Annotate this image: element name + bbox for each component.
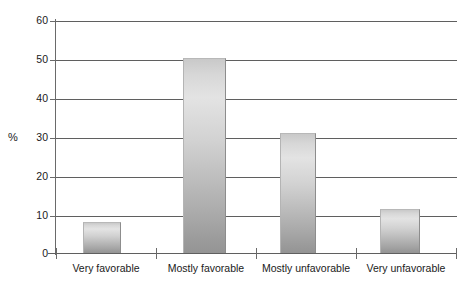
bar-mostly-favorable	[183, 58, 226, 253]
category-tick-1	[156, 248, 157, 259]
category-label-very-favorable: Very favorable	[56, 262, 156, 274]
category-label-mostly-unfavorable: Mostly unfavorable	[254, 262, 358, 274]
y-tick-label-0: 0	[22, 248, 48, 259]
category-label-mostly-favorable: Mostly favorable	[156, 262, 256, 274]
bar-chart: % 60 50 40 30 20 10 0 Very favorable Mos…	[0, 0, 465, 289]
gridline-40	[56, 99, 457, 100]
gridline-50	[56, 60, 457, 61]
plot-area	[56, 21, 457, 253]
category-tick-left	[56, 248, 57, 259]
category-label-very-unfavorable: Very unfavorable	[356, 262, 456, 274]
y-tick-label-60: 60	[22, 15, 48, 26]
category-tick-3	[356, 248, 357, 259]
y-tick-label-40: 40	[22, 93, 48, 104]
bar-mostly-unfavorable	[280, 133, 316, 253]
gridline-20	[56, 177, 457, 178]
gridline-30	[56, 138, 457, 139]
x-axis-line	[48, 253, 457, 254]
y-tick-label-50: 50	[22, 54, 48, 65]
bar-very-favorable	[83, 222, 121, 253]
category-tick-2	[256, 248, 257, 259]
y-tick-label-10: 10	[22, 210, 48, 221]
y-tick-label-30: 30	[22, 132, 48, 143]
y-tick-label-20: 20	[22, 171, 48, 182]
gridline-60	[56, 21, 457, 22]
y-axis-title: %	[8, 131, 18, 143]
bar-very-unfavorable	[380, 209, 420, 253]
category-tick-right	[456, 248, 457, 259]
